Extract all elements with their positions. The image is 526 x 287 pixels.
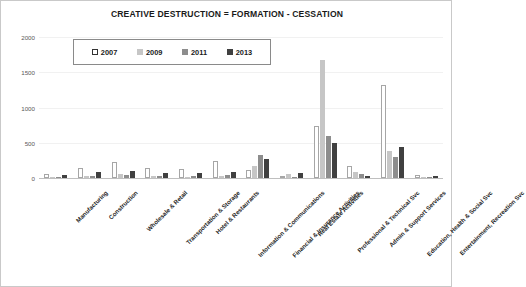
bar-group-bars [376, 37, 410, 189]
bar-2007-9 [314, 126, 319, 178]
y-axis-tick-label: 500 [25, 140, 35, 147]
bar-group [39, 37, 73, 189]
y-axis-tick-label: 0 [32, 175, 35, 182]
bar-2013-9 [332, 143, 337, 178]
bar-group [275, 37, 309, 189]
bar-2007-4 [145, 168, 150, 178]
bar-2011-9 [326, 136, 331, 178]
bar-2007-5 [179, 169, 184, 179]
legend-item-2011[interactable]: 2011 [182, 48, 207, 57]
chart-legend: 2007200920112013 [73, 39, 271, 65]
bar-2009-9 [320, 60, 325, 179]
legend-label: 2011 [191, 48, 207, 57]
bar-group-bars [409, 37, 443, 189]
legend-swatch-2007 [92, 49, 98, 55]
bar-2013-7 [264, 159, 269, 178]
bar-group-bars [308, 37, 342, 189]
legend-item-2013[interactable]: 2013 [227, 48, 252, 57]
bar-group-bars [342, 37, 376, 189]
bar-2013-11 [399, 147, 404, 179]
bar-group-bars [275, 37, 309, 189]
x-axis-label: Entertainment, Recreation Svc [458, 189, 525, 256]
y-axis-tick-label: 1500 [21, 69, 35, 76]
bar-group [409, 37, 443, 189]
bar-2007-2 [78, 168, 83, 179]
bar-2007-3 [112, 162, 117, 178]
legend-label: 2007 [101, 48, 117, 57]
legend-swatch-2013 [227, 49, 233, 55]
bar-2011-11 [393, 157, 398, 178]
bar-group-bars [39, 37, 73, 189]
bar-2007-11 [381, 85, 386, 178]
legend-label: 2009 [146, 48, 162, 57]
legend-swatch-2011 [182, 49, 188, 55]
x-axis-labels: ManufacturingConstructionWholesale & Ret… [39, 189, 443, 279]
x-axis-label: Construction [107, 189, 139, 221]
bar-group [342, 37, 376, 189]
bar-2009-11 [387, 151, 392, 179]
legend-item-2007[interactable]: 2007 [92, 48, 117, 57]
x-axis-label: Wholesale & Retail [145, 189, 189, 233]
bar-2007-10 [347, 166, 352, 179]
x-axis-label: Information & Communications [257, 189, 326, 258]
chart-title: CREATIVE DESTRUCTION = FORMATION - CESSA… [1, 9, 453, 19]
y-axis-tick-label: 2000 [21, 34, 35, 41]
bar-2013-2 [96, 172, 101, 179]
x-axis-label: Manufacturing [74, 189, 109, 224]
bar-2007-7 [246, 170, 251, 178]
bar-2009-7 [252, 166, 257, 179]
bar-group [376, 37, 410, 189]
legend-label: 2013 [236, 48, 252, 57]
legend-swatch-2009 [137, 49, 143, 55]
bar-2011-7 [258, 155, 263, 178]
y-axis-tick-label: 1000 [21, 104, 35, 111]
bar-group [308, 37, 342, 189]
bar-2013-3 [130, 171, 135, 178]
zero-axis-line [39, 178, 443, 179]
legend-item-2009[interactable]: 2009 [137, 48, 162, 57]
bar-2007-6 [213, 161, 218, 178]
